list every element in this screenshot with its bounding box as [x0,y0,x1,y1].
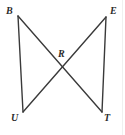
segment-E-U [23,17,106,112]
vertex-label-U: U [11,113,18,123]
segment-E-T [102,17,106,112]
vertex-label-T: T [104,113,110,123]
geometry-figure: B E R U T [0,0,125,135]
segment-B-T [18,16,102,112]
vertex-label-B: B [6,6,13,16]
segment-B-U [18,16,23,112]
vertex-label-E: E [110,6,117,16]
scan-edge-artifact [122,0,123,135]
vertex-label-R: R [58,49,65,59]
